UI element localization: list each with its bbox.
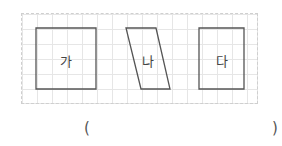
answer-close-paren: ) [272, 119, 278, 137]
shapes-figure [0, 0, 282, 146]
answer-open-paren: ( [84, 119, 90, 137]
label-ga: 가 [60, 51, 72, 70]
label-da: 다 [216, 51, 228, 70]
label-na: 나 [142, 51, 154, 70]
